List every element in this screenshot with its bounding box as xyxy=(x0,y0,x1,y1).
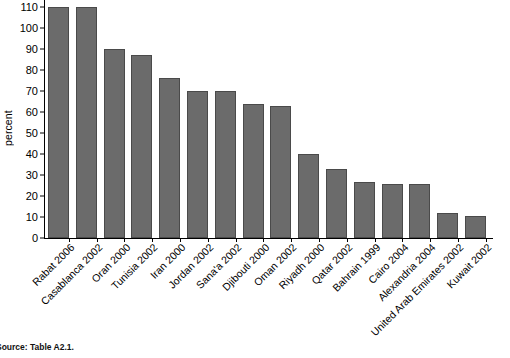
source-note: Source: Table A2.1. xyxy=(0,342,74,352)
bar xyxy=(187,91,208,238)
y-tick-label: 0 xyxy=(32,232,38,244)
bar xyxy=(159,78,180,238)
y-tick-label: 10 xyxy=(26,211,38,223)
y-tick-label: 80 xyxy=(26,64,38,76)
bar-series xyxy=(44,7,493,238)
y-tick-label: 90 xyxy=(26,43,38,55)
bar xyxy=(48,7,69,238)
y-tick-label: 20 xyxy=(26,190,38,202)
bar xyxy=(437,213,458,238)
bar xyxy=(243,104,264,238)
y-tick-label: 100 xyxy=(20,22,38,34)
bar xyxy=(382,184,403,238)
bar-chart-figure: percent 0102030405060708090100110 Rabat … xyxy=(0,0,510,358)
y-tick-label: 110 xyxy=(20,1,38,13)
y-tick-label: 30 xyxy=(26,169,38,181)
bar xyxy=(409,184,430,238)
x-axis-category-labels: Rabat 2006Casablanca 2002Oran 2000Tunisi… xyxy=(44,241,504,331)
bar xyxy=(131,55,152,238)
plot-area: 0102030405060708090100110 xyxy=(44,7,493,239)
bar xyxy=(326,169,347,238)
bar xyxy=(215,91,236,238)
y-axis-label: percent xyxy=(2,98,18,158)
y-tick-label: 60 xyxy=(26,106,38,118)
y-tick-label: 50 xyxy=(26,127,38,139)
bar xyxy=(76,7,97,238)
y-tick-label: 70 xyxy=(26,85,38,97)
bar xyxy=(465,216,486,238)
bar xyxy=(104,49,125,238)
y-tick-label: 40 xyxy=(26,148,38,160)
bar xyxy=(298,154,319,238)
x-axis-line xyxy=(44,238,493,239)
bar xyxy=(270,106,291,238)
bar xyxy=(354,182,375,238)
